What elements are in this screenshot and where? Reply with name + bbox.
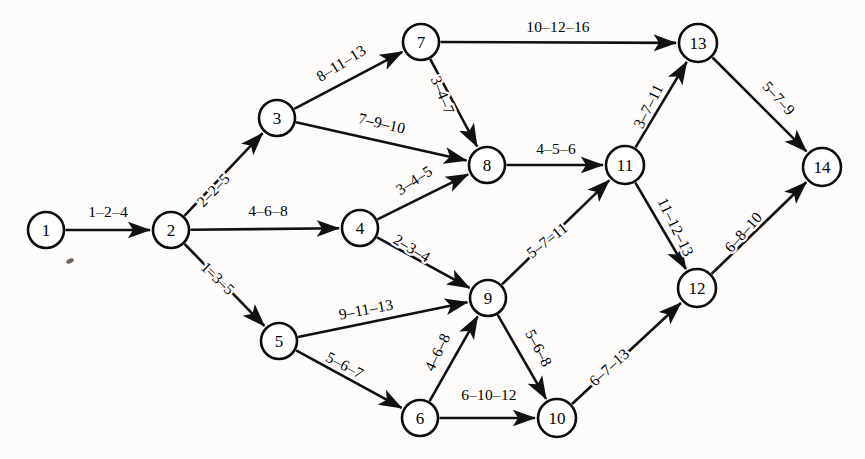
- node-8[interactable]: 8: [469, 147, 505, 183]
- node-label-1: 1: [42, 221, 51, 240]
- node-13[interactable]: 13: [679, 24, 717, 62]
- paper-marks-layer: [65, 257, 74, 264]
- edge-label-group-8-11: 4–5–64–5–6: [536, 140, 576, 157]
- node-label-10: 10: [549, 409, 566, 428]
- node-label-12: 12: [689, 279, 706, 298]
- edge-label-9-10: 5–6–8: [522, 326, 556, 369]
- edge-label-10-12: 6–7–13: [586, 345, 633, 390]
- edge-label-6-10: 6–10–12: [461, 386, 517, 403]
- paper-speck: [65, 257, 74, 264]
- node-label-9: 9: [484, 289, 493, 308]
- edge-label-group-2-4: 4–6–84–6–8: [248, 202, 288, 219]
- node-11[interactable]: 11: [606, 146, 644, 184]
- edge-12-to-14: [712, 182, 806, 273]
- edge-label-group-10-12: 6–7–136–7–13: [586, 345, 633, 390]
- node-14[interactable]: 14: [803, 148, 841, 186]
- edge-label-12-14: 6–8–10: [721, 209, 766, 256]
- edge-label-group-4-9: 2–3–42–3–4: [391, 230, 434, 265]
- node-10[interactable]: 10: [538, 399, 576, 437]
- edge-label-group-3-7: 8–11–138–11–13: [313, 41, 369, 85]
- edge-label-group-7-8: 3–4–73–4–7: [428, 73, 459, 116]
- node-label-8: 8: [483, 156, 492, 175]
- node-3[interactable]: 3: [259, 100, 295, 136]
- edge-label-2-4: 4–6–8: [248, 202, 288, 219]
- node-label-3: 3: [273, 109, 282, 128]
- edge-label-group-6-10: 6–10–126–10–12: [461, 386, 517, 403]
- node-label-14: 14: [814, 158, 832, 177]
- node-label-13: 13: [690, 34, 707, 53]
- edge-label-7-13: 10–12–16: [526, 18, 590, 35]
- node-label-4: 4: [356, 219, 365, 238]
- node-label-5: 5: [275, 332, 284, 351]
- edge-label-group-9-10: 5–6–85–6–8: [522, 326, 556, 369]
- edge-labels-layer: 1–2–41–2–42–2–52–2–54–6–84–6–81–3–51–3–5…: [88, 18, 799, 403]
- edge-label-group-7-13: 10–12–1610–12–16: [526, 18, 590, 35]
- node-1[interactable]: 1: [28, 212, 64, 248]
- edge-label-3-8: 7–9–10: [357, 109, 407, 136]
- edge-label-3-7: 8–11–13: [313, 41, 369, 85]
- node-12[interactable]: 12: [678, 269, 716, 307]
- node-9[interactable]: 9: [470, 280, 506, 316]
- node-label-2: 2: [167, 221, 176, 240]
- edge-label-4-9: 2–3–4: [391, 230, 434, 265]
- edge-label-9-11: 5–7–11: [523, 219, 571, 261]
- node-5[interactable]: 5: [261, 323, 297, 359]
- edge-label-2-3: 2–2–5: [193, 170, 233, 210]
- node-label-6: 6: [416, 409, 425, 428]
- node-label-11: 11: [617, 156, 633, 175]
- node-4[interactable]: 4: [342, 210, 378, 246]
- node-7[interactable]: 7: [403, 24, 439, 60]
- node-label-7: 7: [417, 33, 426, 52]
- edge-label-1-2: 1–2–4: [88, 203, 128, 220]
- edge-7-to-13: [440, 42, 676, 43]
- node-6[interactable]: 6: [402, 400, 438, 436]
- edge-label-group-9-11: 5–7–115–7–11: [523, 219, 571, 261]
- network-diagram: 1234567891011121314 1–2–41–2–42–2–52–2–5…: [0, 0, 865, 459]
- network-graph-canvas: 1234567891011121314 1–2–41–2–42–2–52–2–5…: [0, 0, 865, 459]
- edge-label-group-13-14: 5–7–95–7–9: [759, 78, 798, 119]
- edge-label-group-1-2: 1–2–41–2–4: [88, 203, 128, 220]
- edge-label-group-2-3: 2–2–52–2–5: [193, 170, 233, 210]
- edge-label-group-3-8: 7–9–107–9–10: [357, 109, 407, 136]
- edge-label-13-14: 5–7–9: [759, 78, 798, 119]
- edge-2-to-4: [190, 228, 339, 230]
- node-2[interactable]: 2: [153, 212, 189, 248]
- edge-label-group-12-14: 6–8–106–8–10: [721, 209, 766, 256]
- edge-label-8-11: 4–5–6: [536, 140, 576, 157]
- edge-label-7-8: 3–4–7: [428, 73, 459, 116]
